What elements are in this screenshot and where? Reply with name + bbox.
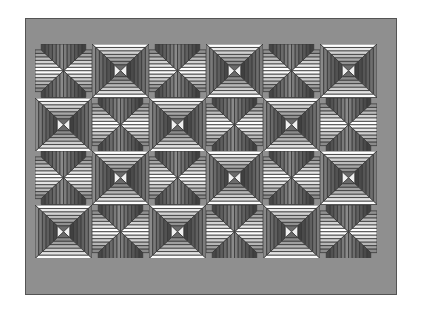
quilt-block-r0-c0: [35, 44, 92, 98]
artwork-canvas: [0, 0, 428, 315]
quilt-block-r3-c5: [320, 205, 377, 259]
quilt-block-r1-c2: [149, 98, 206, 152]
pyramid-block-corners: [206, 205, 263, 259]
pyramid-block-center: [320, 151, 377, 205]
pyramid-block-corners: [149, 151, 206, 205]
pyramid-block-center: [320, 44, 377, 98]
quilt-block-r1-c4: [263, 98, 320, 152]
pyramid-block-corners: [92, 98, 149, 152]
pyramid-block-center: [206, 44, 263, 98]
quilt-block-r3-c4: [263, 205, 320, 259]
quilt-block-r0-c4: [263, 44, 320, 98]
quilt-block-r3-c1: [92, 205, 149, 259]
quilt-block-r2-c3: [206, 151, 263, 205]
pyramid-block-corners: [320, 98, 377, 152]
pyramid-block-corners: [263, 151, 320, 205]
quilt-block-r2-c2: [149, 151, 206, 205]
quilt-block-r1-c3: [206, 98, 263, 152]
pyramid-block-corners: [149, 44, 206, 98]
pyramid-block-center: [92, 151, 149, 205]
quilt-block-grid: [35, 44, 377, 258]
quilt-block-r0-c1: [92, 44, 149, 98]
quilt-block-r0-c5: [320, 44, 377, 98]
pyramid-block-corners: [320, 205, 377, 259]
pyramid-block-center: [92, 44, 149, 98]
pyramid-block-center: [263, 205, 320, 259]
pyramid-block-center: [149, 205, 206, 259]
pyramid-block-center: [206, 151, 263, 205]
pyramid-block-corners: [92, 205, 149, 259]
quilt-block-r0-c3: [206, 44, 263, 98]
pyramid-block-center: [149, 98, 206, 152]
quilt-block-r0-c2: [149, 44, 206, 98]
pyramid-block-corners: [35, 44, 92, 98]
pyramid-block-center: [263, 98, 320, 152]
quilt-block-r2-c1: [92, 151, 149, 205]
pyramid-block-corners: [35, 151, 92, 205]
quilt-block-r3-c2: [149, 205, 206, 259]
quilt-block-r2-c5: [320, 151, 377, 205]
pyramid-block-center: [35, 98, 92, 152]
quilt-block-r2-c4: [263, 151, 320, 205]
quilt-block-r3-c0: [35, 205, 92, 259]
quilt-block-r1-c5: [320, 98, 377, 152]
quilt-block-r1-c1: [92, 98, 149, 152]
quilt-block-r2-c0: [35, 151, 92, 205]
quilt-block-r1-c0: [35, 98, 92, 152]
pyramid-block-corners: [263, 44, 320, 98]
pyramid-block-corners: [206, 98, 263, 152]
pyramid-block-center: [35, 205, 92, 259]
quilt-block-r3-c3: [206, 205, 263, 259]
